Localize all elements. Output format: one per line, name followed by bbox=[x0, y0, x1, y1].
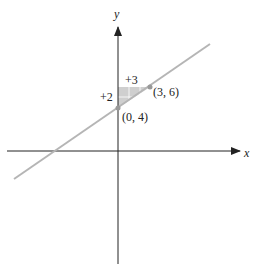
point-0-4 bbox=[116, 106, 121, 111]
point-label-0-4: (0, 4) bbox=[122, 110, 148, 124]
x-axis-label: x bbox=[243, 146, 250, 160]
y-axis-label: y bbox=[113, 7, 120, 21]
coordinate-diagram: y x +3 +2 (3, 6) (0, 4) bbox=[0, 0, 257, 277]
run-label: +3 bbox=[125, 73, 138, 87]
point-label-3-6: (3, 6) bbox=[153, 85, 179, 99]
point-3-6 bbox=[148, 85, 153, 90]
graph-line bbox=[14, 44, 210, 179]
rise-label: +2 bbox=[100, 90, 113, 104]
